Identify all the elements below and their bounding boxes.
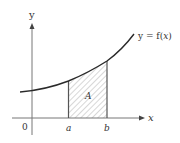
shaded-region-A (69, 61, 108, 118)
area-under-curve-diagram: y x 0 a b A y = f(x) (0, 0, 180, 143)
y-axis-label: y (28, 9, 35, 20)
bound-label-b: b (104, 123, 110, 133)
curve-label-prefix: y = f( (137, 31, 163, 41)
bound-label-a: a (66, 123, 71, 133)
curve-label: y = f(x) (137, 31, 172, 41)
x-axis-label: x (148, 112, 154, 123)
origin-label: 0 (22, 122, 28, 132)
x-axis-arrow-icon (139, 116, 145, 121)
region-label: A (84, 91, 92, 101)
y-axis-arrow-icon (30, 23, 35, 29)
curve-label-suffix: ) (168, 31, 172, 41)
